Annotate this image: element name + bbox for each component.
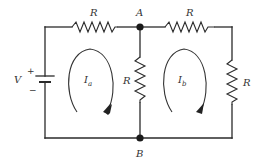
resistor-middle: R <box>122 57 145 103</box>
node-b-label: B <box>135 148 143 159</box>
resistor-top-left: R <box>72 7 118 32</box>
loop-current-b: Ib <box>164 49 207 114</box>
node-a-label: A <box>135 7 143 18</box>
minus-sign: − <box>29 85 37 95</box>
resistor-middle-label: R <box>122 75 131 86</box>
resistor-top-right: R <box>165 7 215 32</box>
resistor-right: R <box>227 60 251 105</box>
current-a-label: Ia <box>83 74 92 88</box>
circuit-diagram: V + − R R R R A B Ia Ib <box>0 0 268 167</box>
resistor-top-left-label: R <box>89 7 98 18</box>
current-b-label: Ib <box>177 74 187 88</box>
voltage-source: V + − <box>14 66 54 95</box>
source-label: V <box>14 74 23 85</box>
plus-sign: + <box>27 66 35 76</box>
arrowhead-b-icon <box>196 103 204 114</box>
resistor-right-label: R <box>242 77 251 88</box>
resistor-top-right-label: R <box>185 7 194 18</box>
loop-current-a: Ia <box>69 49 113 115</box>
